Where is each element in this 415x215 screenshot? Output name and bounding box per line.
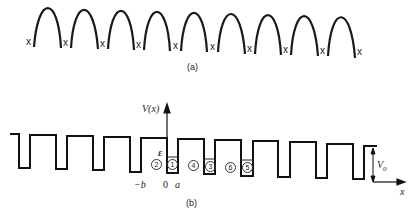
region-marker-3: 3 [205,161,216,172]
atom-marker: x [100,39,105,49]
tick-neg-b: −b [134,180,146,190]
kronig-penney-potential [10,134,377,179]
atom-marker: x [136,40,141,50]
tick-a: a [175,180,180,190]
v0-dimension-arrow [371,148,375,182]
barrier-height-label: V0 [377,160,387,173]
atom-marker: x [320,46,325,56]
region-marker-6: 6 [225,162,236,173]
atom-marker: x [357,47,362,57]
atom-marker: x [63,38,68,48]
atom-marker: x [283,45,288,55]
x-axis-arrow [373,179,405,185]
barrier-subscript: 0 [383,165,387,173]
atom-marker: x [26,37,31,47]
caption-b: (b) [186,199,197,208]
y-axis-label: V(x) [142,104,159,114]
region-marker-2: 2 [151,159,162,170]
region-marker-5: 5 [242,162,253,173]
region-marker-4: 4 [188,160,199,171]
caption-a: (a) [187,63,198,72]
arch-row [34,8,355,58]
diagram-canvas [0,0,415,215]
x-axis-label: x [400,187,404,197]
atom-marker: x [210,42,215,52]
tick-zero: 0 [163,180,168,190]
atom-marker: x [247,44,252,54]
energy-label: ε [158,148,162,158]
v-axis-arrow [164,104,170,138]
region-marker-1: 1 [167,159,178,170]
atom-marker: x [173,41,178,51]
